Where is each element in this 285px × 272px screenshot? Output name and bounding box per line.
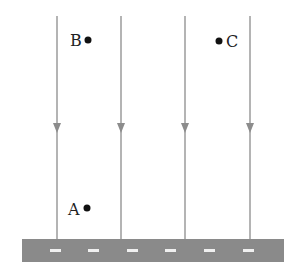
point-b-label: B: [70, 31, 82, 50]
point-b: B: [70, 31, 92, 50]
point-c-label: C: [226, 32, 238, 51]
field-line-1: [53, 16, 61, 239]
field-line-3: [181, 16, 189, 239]
point-c: C: [216, 32, 239, 51]
point-a: A: [67, 200, 91, 219]
down-arrow-icon: [53, 123, 61, 133]
down-arrow-icon: [246, 123, 254, 133]
diagram-canvas: B C A: [0, 0, 285, 272]
point-a-label: A: [67, 200, 80, 219]
field-line-2: [117, 16, 125, 239]
field-line-4: [246, 16, 254, 239]
field-lines-diagram: B C A: [0, 0, 285, 272]
down-arrow-icon: [117, 123, 125, 133]
down-arrow-icon: [181, 123, 189, 133]
